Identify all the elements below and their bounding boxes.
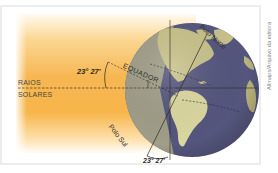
diagram-canvas	[0, 0, 278, 173]
earth-tilt-diagram: RAIOS SOLARES 23° 27' 23° 27' EQUADOR Po…	[0, 0, 278, 173]
angle-label-top: 23° 27'	[77, 67, 101, 76]
rays-label-line2: SOLARES	[18, 91, 52, 98]
angle-label-bottom: 23° 27'	[143, 157, 165, 164]
image-credit: Allmaps/Arquivo da editora	[264, 10, 276, 90]
credit-text: Allmaps/Arquivo da editora	[266, 22, 272, 90]
rays-label-line1: RAIOS	[18, 79, 41, 86]
